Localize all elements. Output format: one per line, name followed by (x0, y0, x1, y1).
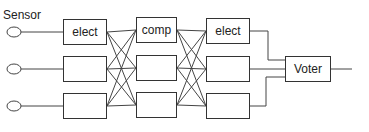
elect-in-box-1: elect (63, 19, 107, 45)
elect-out-box-1: elect (206, 18, 250, 44)
sensor-1-icon (7, 27, 21, 37)
sensor-label: Sensor (3, 9, 41, 21)
sensor-3-icon (7, 101, 21, 111)
comp-box-3 (136, 92, 177, 118)
elect-in-box-3 (63, 93, 107, 119)
elect-in-box-2 (63, 56, 107, 82)
sensor-2-icon (7, 64, 21, 74)
comp-box-2 (136, 55, 177, 81)
elect-out-box-3 (206, 93, 250, 119)
voter-box: Voter (285, 56, 331, 82)
elect-out-box-2 (206, 56, 250, 82)
comp-box-1: comp (136, 17, 177, 43)
